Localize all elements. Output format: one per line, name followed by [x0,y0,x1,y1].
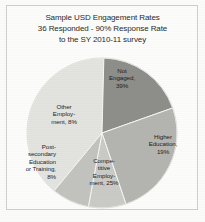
pie-label-post-secondary-line-2: secondary [8,150,56,157]
pie-label-other-employment-line-3: ment, 8% [46,118,82,125]
pie-label-post-secondary-line-3: Education [8,158,56,165]
pie-label-competitive-employment: Compe- titive Employ- ment, 25% [84,157,124,187]
pie-label-other-employment: Other Employ- ment, 8% [46,103,82,125]
pie-label-higher-education-line-2: Education, [140,140,186,147]
pie-label-not-engaged-line-1: Not [100,67,144,74]
pie-label-not-engaged-line-2: Engaged, [100,74,144,81]
chart-figure: Sample USD Engagement Rates 36 Responded… [0,0,205,222]
pie-label-post-secondary-line-1: Post- [8,143,56,150]
pie-label-competitive-employment-line-3: Employ- [84,172,124,179]
pie-label-competitive-employment-line-1: Compe- [84,157,124,164]
pie-label-higher-education-line-3: 19% [140,148,186,155]
pie-label-higher-education-line-1: Higher [140,133,186,140]
pie-label-post-secondary-line-5: 8% [8,173,56,180]
pie-label-higher-education: Higher Education, 19% [140,133,186,155]
pie-label-not-engaged: Not Engaged, 39% [100,67,144,89]
pie-label-other-employment-line-2: Employ- [46,110,82,117]
pie-label-not-engaged-line-3: 39% [100,82,144,89]
pie-label-post-secondary-line-4: or Training, [8,165,56,172]
pie-label-post-secondary-education: Post- secondary Education or Training, 8… [8,143,56,180]
pie-label-other-employment-line-1: Other [46,103,82,110]
pie-label-competitive-employment-line-2: titive [84,164,124,171]
pie-label-competitive-employment-line-4: ment, 25% [84,179,124,186]
pie-plot-area: Not Engaged, 39% Higher Education, 19% C… [6,5,198,210]
